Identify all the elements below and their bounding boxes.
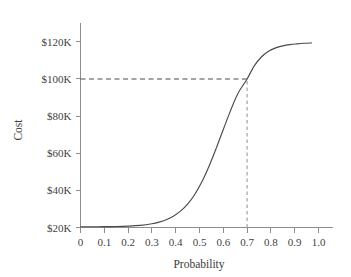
x-axis-tick-label: 0.6	[216, 236, 230, 248]
x-axis-tick-label: 1.0	[312, 236, 326, 248]
x-axis-tick-label: 0.5	[193, 236, 207, 248]
x-axis-tick-label: 0.3	[145, 236, 159, 248]
y-axis-title: Cost	[12, 119, 24, 141]
x-axis-tick-mark-group	[81, 228, 319, 233]
y-axis-tick-label: $20K	[47, 222, 72, 234]
y-axis-tick-label: $80K	[47, 110, 72, 122]
chart-canvas: $20K$40K$60K$80K$100K$120K 00.10.20.30.4…	[0, 0, 351, 277]
x-axis-tick-label-group: 00.10.20.30.40.50.60.70.80.91.0	[78, 236, 326, 248]
x-axis-tick-label: 0.8	[264, 236, 278, 248]
x-axis-tick-label: 0.2	[121, 236, 135, 248]
x-axis-tick-label: 0.4	[169, 236, 183, 248]
y-axis-tick-label: $40K	[47, 184, 72, 196]
y-axis-tick-label: $100K	[42, 73, 72, 85]
y-axis-tick-label: $60K	[47, 147, 72, 159]
x-axis-tick-label: 0.1	[97, 236, 111, 248]
y-axis-tick-label-group: $20K$40K$60K$80K$100K$120K	[42, 36, 72, 234]
cost-probability-chart: $20K$40K$60K$80K$100K$120K 00.10.20.30.4…	[0, 0, 351, 277]
x-axis-tick-label: 0.7	[240, 236, 254, 248]
cost-curve-line	[81, 43, 312, 227]
x-axis-title: Probability	[173, 258, 224, 271]
y-axis-tick-label: $120K	[42, 36, 72, 48]
y-axis-tick-mark-group	[76, 42, 81, 228]
x-axis-tick-label: 0	[78, 236, 84, 248]
x-axis-tick-label: 0.9	[288, 236, 302, 248]
